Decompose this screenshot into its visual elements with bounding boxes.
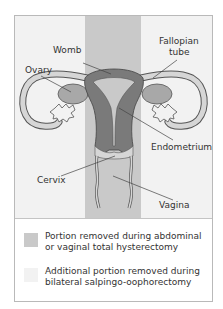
label-fallopian-line2: tube: [169, 47, 189, 57]
legend-item-hysterectomy: Portion removed during abdominal or vagi…: [24, 231, 205, 253]
right-ovary: [142, 84, 172, 104]
legend-label-salpingo-oophorectomy: Additional portion removed during bilate…: [45, 266, 205, 288]
label-endometrium: Endometrium: [151, 142, 212, 152]
left-fimbriae: [50, 104, 75, 122]
ovary-leader: [41, 76, 71, 92]
right-fimbriae: [152, 104, 177, 122]
legend-swatch-salpingo-oophorectomy: [24, 268, 38, 282]
legend-swatch-hysterectomy: [24, 233, 38, 247]
label-vagina: Vagina: [159, 200, 189, 210]
legend-label-hysterectomy: Portion removed during abdominal or vagi…: [45, 231, 205, 253]
label-womb: Womb: [53, 45, 81, 55]
legend-item-salpingo-oophorectomy: Additional portion removed during bilate…: [24, 266, 205, 288]
label-cervix: Cervix: [37, 175, 66, 185]
legend: Portion removed during abdominal or vagi…: [15, 219, 212, 301]
cervix-leader: [61, 156, 115, 176]
vagina-leader: [113, 176, 173, 200]
anatomy-diagram: Womb Fallopian tube Ovary Endometrium Ce…: [15, 16, 212, 219]
left-ovary: [58, 84, 88, 104]
label-ovary: Ovary: [25, 65, 52, 75]
label-fallopian-line1: Fallopian: [159, 36, 199, 46]
figure-frame: Womb Fallopian tube Ovary Endometrium Ce…: [14, 15, 213, 302]
